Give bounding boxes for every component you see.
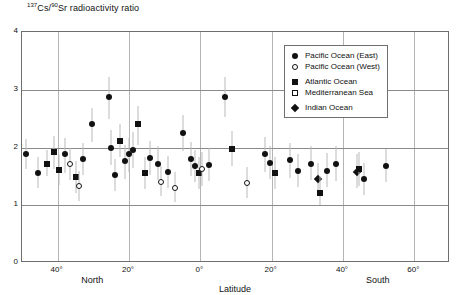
hemisphere-label: South	[366, 275, 390, 285]
data-point[interactable]	[89, 121, 95, 127]
data-point[interactable]	[172, 185, 178, 191]
data-point[interactable]	[117, 138, 123, 144]
gridline-vertical	[272, 32, 273, 261]
gridline-horizontal	[22, 205, 448, 206]
data-point[interactable]	[62, 151, 68, 157]
data-point[interactable]	[135, 121, 141, 127]
legend: Pacific Ocean (East)Pacific Ocean (West)…	[284, 45, 388, 118]
title-isotope-2: Sr radioactivity ratio	[58, 3, 139, 13]
gridline-vertical	[58, 32, 59, 261]
legend-label: Pacific Ocean (West)	[305, 62, 380, 72]
legend-marker-circle-filled-icon	[290, 51, 300, 61]
data-point[interactable]	[383, 163, 389, 169]
y-axis-tick-label: 3	[4, 84, 18, 93]
data-point[interactable]	[199, 166, 205, 172]
data-point[interactable]	[130, 147, 136, 153]
data-point[interactable]	[287, 157, 293, 163]
data-point[interactable]	[44, 161, 50, 167]
data-point[interactable]	[317, 190, 323, 196]
hemisphere-label: North	[81, 275, 103, 285]
data-point[interactable]	[356, 166, 362, 172]
data-point[interactable]	[262, 151, 268, 157]
legend-label: Indian Ocean	[305, 103, 353, 113]
data-point[interactable]	[333, 161, 339, 167]
gridline-vertical	[200, 32, 201, 261]
data-point[interactable]	[35, 170, 41, 176]
data-point[interactable]	[244, 180, 250, 186]
data-point[interactable]	[272, 170, 278, 176]
legend-label: Mediterranean Sea	[305, 88, 373, 98]
y-axis-tick-label: 4	[4, 26, 18, 35]
data-point[interactable]	[206, 162, 212, 168]
data-point[interactable]	[267, 160, 273, 166]
legend-item[interactable]: Atlantic Ocean	[290, 76, 380, 87]
data-point[interactable]	[142, 170, 148, 176]
data-point[interactable]	[51, 149, 57, 155]
x-axis-title: Latitude	[219, 284, 251, 294]
data-point[interactable]	[165, 169, 171, 175]
title-isotope-1: Cs/	[37, 3, 51, 13]
data-point[interactable]	[229, 146, 235, 152]
data-point[interactable]	[158, 179, 164, 185]
y-axis-tick-label: 0	[4, 257, 18, 266]
page-title: 137Cs/90Sr radioactivity ratio	[27, 3, 139, 13]
legend-item[interactable]: Pacific Ocean (West)	[290, 61, 380, 72]
legend-item[interactable]: Mediterranean Sea	[290, 87, 380, 98]
title-superscript-1: 137	[27, 2, 37, 8]
x-axis-tick-label: 60°	[407, 265, 419, 274]
data-point[interactable]	[76, 183, 82, 189]
data-point[interactable]	[324, 168, 330, 174]
data-point[interactable]	[314, 175, 322, 183]
x-axis-tick-label: 40°	[51, 265, 63, 274]
legend-item[interactable]: Indian Ocean	[290, 102, 380, 113]
x-axis-tick-label: 20°	[122, 265, 134, 274]
y-axis-tick-label: 1	[4, 199, 18, 208]
data-point[interactable]	[308, 161, 314, 167]
data-point[interactable]	[112, 172, 118, 178]
data-point[interactable]	[106, 94, 112, 100]
legend-marker-square-filled-icon	[290, 77, 300, 87]
x-axis-tick-label: 0°	[196, 265, 204, 274]
x-axis-tick-label: 20°	[265, 265, 277, 274]
y-axis-tick-label: 2	[4, 142, 18, 151]
title-superscript-2: 90	[51, 2, 58, 8]
legend-label: Pacific Ocean (East)	[305, 51, 378, 61]
legend-marker-square-open-icon	[290, 88, 300, 98]
legend-item[interactable]: Pacific Ocean (East)	[290, 50, 380, 61]
data-point[interactable]	[108, 145, 114, 151]
legend-marker-diamond-filled-icon	[290, 103, 300, 113]
data-point[interactable]	[222, 94, 228, 100]
data-point[interactable]	[23, 151, 29, 157]
x-axis-tick-label: 40°	[336, 265, 348, 274]
data-point[interactable]	[295, 168, 301, 174]
data-point[interactable]	[147, 155, 153, 161]
data-point[interactable]	[56, 167, 62, 173]
data-point[interactable]	[67, 161, 73, 167]
data-point[interactable]	[80, 156, 86, 162]
legend-marker-circle-open-icon	[290, 62, 300, 72]
legend-label: Atlantic Ocean	[305, 77, 357, 87]
gridline-vertical	[414, 32, 415, 261]
data-point[interactable]	[361, 176, 367, 182]
data-point[interactable]	[180, 130, 186, 136]
